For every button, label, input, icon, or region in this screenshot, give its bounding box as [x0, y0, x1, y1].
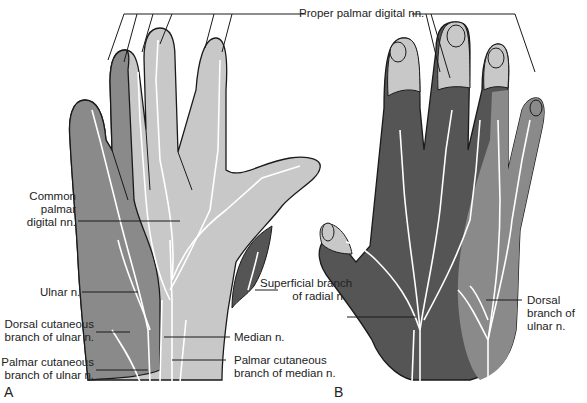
label-ulnar: Ulnar n. [40, 286, 80, 299]
label-median: Median n. [234, 331, 285, 344]
hand-a-palmar [70, 28, 321, 382]
label-dorsal-cutaneous-ulnar: Dorsal cutaneous branch of ulnar n. [0, 318, 94, 344]
label-palmar-cutaneous-median: Palmar cutaneous branch of median n. [234, 354, 336, 380]
panel-letter-b: B [334, 384, 343, 400]
label-dorsal-branch-ulnar: Dorsal branch of ulnar n. [527, 294, 575, 333]
hand-b-ulnar-territory [458, 90, 544, 380]
label-common-palmar-digital: Common palmar digital nn. [14, 190, 76, 229]
hand-b-dorsal [319, 22, 544, 382]
label-proper-palmar-digital: Proper palmar digital nn. [299, 7, 424, 20]
panel-letter-a: A [4, 384, 13, 400]
label-palmar-cutaneous-ulnar: Palmar cutaneous branch of ulnar n. [0, 356, 94, 382]
label-superficial-radial: Superficial branch of radial n. [260, 277, 346, 303]
